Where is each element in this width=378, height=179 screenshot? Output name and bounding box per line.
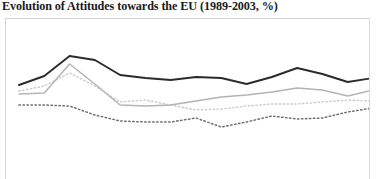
- series-line-4-dark-dotted: [19, 105, 370, 127]
- chart-title: Evolution of Attitudes towards the EU (1…: [2, 0, 376, 14]
- plot-area: [5, 18, 370, 179]
- series-line-1-dark-solid: [19, 56, 370, 85]
- series-line-3-light-dotted: [19, 73, 370, 110]
- line-chart-svg: [6, 19, 370, 179]
- series-line-2-light-solid: [19, 64, 370, 106]
- chart-figure: Evolution of Attitudes towards the EU (1…: [0, 0, 378, 179]
